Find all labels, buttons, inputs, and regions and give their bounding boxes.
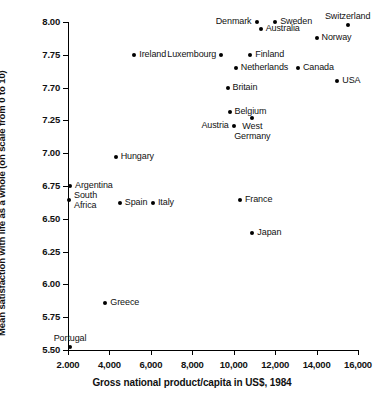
data-point-marker [67, 198, 71, 202]
data-point-label: Luxembourg [167, 50, 216, 59]
x-tick-label: 6,000 [139, 360, 162, 370]
y-tick [63, 252, 68, 253]
y-tick-label: 6.50 [42, 214, 60, 224]
data-point-label: Norway [322, 33, 352, 42]
x-tick [68, 350, 69, 355]
data-point-label: Spain [125, 198, 148, 207]
plot-area: DenmarkSwedenSwitzerlandAustraliaNorwayI… [68, 22, 358, 350]
data-point-label: Australia [266, 24, 300, 33]
data-point-label: Switzerland [325, 11, 370, 20]
data-point-marker [296, 66, 300, 70]
data-point-label: France [245, 196, 272, 205]
x-tick [151, 350, 152, 355]
scatter-chart: Mean satisfaction with life as a whole (… [0, 0, 384, 397]
x-tick [234, 350, 235, 355]
data-point-marker [232, 124, 236, 128]
data-point-label: Britain [233, 83, 258, 92]
data-point-marker [250, 116, 254, 120]
data-point-label: Austria [201, 121, 228, 130]
data-point-marker [68, 345, 72, 349]
data-point-label: Finland [255, 50, 284, 59]
y-tick-label: 7.25 [42, 115, 60, 125]
x-tick-label: 12,000 [261, 360, 289, 370]
data-point-marker [118, 201, 122, 205]
data-point-marker [151, 201, 155, 205]
y-tick-label: 5.75 [42, 312, 60, 322]
data-point-label: SouthAfrica [74, 191, 97, 210]
x-tick-label: 8,000 [181, 360, 204, 370]
data-point-marker [259, 27, 263, 31]
y-tick-label: 7.00 [42, 148, 60, 158]
data-point-marker [228, 110, 232, 114]
y-tick-label: 8.00 [42, 17, 60, 27]
data-point-marker [68, 184, 72, 188]
data-point-marker [114, 155, 118, 159]
data-point-marker [132, 53, 136, 57]
x-tick-label: 14,000 [303, 360, 331, 370]
y-tick [63, 317, 68, 318]
data-point-label: Italy [158, 198, 174, 207]
y-tick-label: 6.25 [42, 247, 60, 257]
data-point-marker [346, 23, 350, 27]
x-tick [358, 350, 359, 355]
data-point-label: Canada [303, 63, 334, 72]
data-point-label: Netherlands [241, 63, 288, 72]
data-point-marker [226, 86, 230, 90]
data-point-label: USA [342, 76, 360, 85]
data-point-marker [255, 20, 259, 24]
data-point-marker [219, 53, 223, 57]
x-tick-label: 16,000 [344, 360, 372, 370]
data-point-label: WestGermany [234, 122, 270, 141]
y-tick [63, 55, 68, 56]
data-point-marker [234, 66, 238, 70]
data-point-marker [238, 198, 242, 202]
x-tick [317, 350, 318, 355]
y-tick [63, 22, 68, 23]
x-tick-label: 4,000 [98, 360, 121, 370]
x-axis-line [68, 350, 358, 351]
y-tick-label: 6.00 [42, 279, 60, 289]
y-tick [63, 284, 68, 285]
data-point-label: Japan [257, 229, 281, 238]
y-axis-title: Mean satisfaction with life as a whole (… [0, 6, 10, 336]
data-point-marker [335, 79, 339, 83]
x-tick-label: 10,000 [220, 360, 248, 370]
data-point-label: Ireland [139, 50, 166, 59]
x-tick [275, 350, 276, 355]
y-tick-label: 5.50 [42, 345, 60, 355]
y-tick-label: 6.75 [42, 181, 60, 191]
x-axis-title: Gross national product/capita in US$, 19… [0, 377, 384, 388]
data-point-label: Greece [110, 298, 139, 307]
data-point-label: Belgium [235, 107, 267, 116]
y-tick-label: 7.75 [42, 50, 60, 60]
y-tick-label: 7.70 [42, 83, 60, 93]
data-point-marker [248, 53, 252, 57]
y-tick [63, 88, 68, 89]
data-point-label: Hungary [121, 152, 154, 161]
y-tick [63, 120, 68, 121]
data-point-marker [103, 301, 107, 305]
data-point-label: Denmark [216, 17, 252, 26]
data-point-marker [315, 36, 319, 40]
y-tick [63, 153, 68, 154]
x-tick-label: 2.000 [57, 360, 80, 370]
x-tick [192, 350, 193, 355]
data-point-marker [250, 231, 254, 235]
data-point-label: Portugal [54, 334, 87, 343]
y-tick [63, 219, 68, 220]
x-tick [109, 350, 110, 355]
